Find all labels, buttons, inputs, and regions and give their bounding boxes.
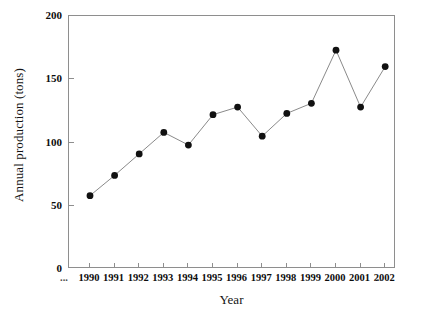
chart-figure: Annual production (tons) 050100150200 19… (0, 0, 423, 314)
data-point (283, 110, 290, 117)
data-point (111, 172, 118, 179)
data-point (160, 129, 167, 136)
x-axis-break-left: ... (55, 272, 73, 283)
x-axis-tick-mark (187, 263, 188, 268)
x-axis-tick-mark (237, 263, 238, 268)
plot-area (68, 15, 395, 268)
x-axis-tick-labels: 1990199119921993199419951996199719981999… (0, 272, 423, 288)
x-axis-tick-mark (114, 263, 115, 268)
line-series-svg (69, 16, 396, 269)
x-axis-tick-mark (335, 263, 336, 268)
y-axis-tick-labels: 050100150200 (28, 0, 62, 314)
series-line (90, 50, 385, 195)
y-axis-tick-label: 50 (30, 199, 62, 211)
x-axis-tick-mark (163, 263, 164, 268)
x-axis-tick-mark (360, 263, 361, 268)
series-markers (87, 47, 389, 199)
y-axis-tick-mark (69, 78, 74, 79)
x-axis-break-right: ... (369, 272, 387, 283)
data-point (87, 192, 94, 199)
x-axis-tick-mark (212, 263, 213, 268)
x-axis-tick-mark (261, 263, 262, 268)
data-point (185, 142, 192, 149)
y-axis-tick-label: 100 (30, 136, 62, 148)
data-point (210, 111, 217, 118)
data-point (333, 47, 340, 54)
data-point (234, 104, 241, 111)
y-axis-tick-mark (69, 142, 74, 143)
y-axis-tick-label: 200 (30, 9, 62, 21)
data-point (136, 150, 143, 157)
x-axis-tick-mark (286, 263, 287, 268)
x-axis-title: Year (68, 292, 395, 308)
data-point (357, 104, 364, 111)
x-axis-tick-mark (89, 263, 90, 268)
y-axis-title-text: Annual production (tons) (11, 68, 27, 202)
y-axis-tick-label: 150 (30, 72, 62, 84)
x-axis-tick-mark (310, 263, 311, 268)
x-axis-title-text: Year (220, 292, 244, 307)
y-axis-tick-mark (69, 205, 74, 206)
x-axis-tick-mark (384, 263, 385, 268)
x-axis-tick-mark (138, 263, 139, 268)
data-point (259, 133, 266, 140)
data-point (308, 100, 315, 107)
data-point (382, 63, 389, 70)
